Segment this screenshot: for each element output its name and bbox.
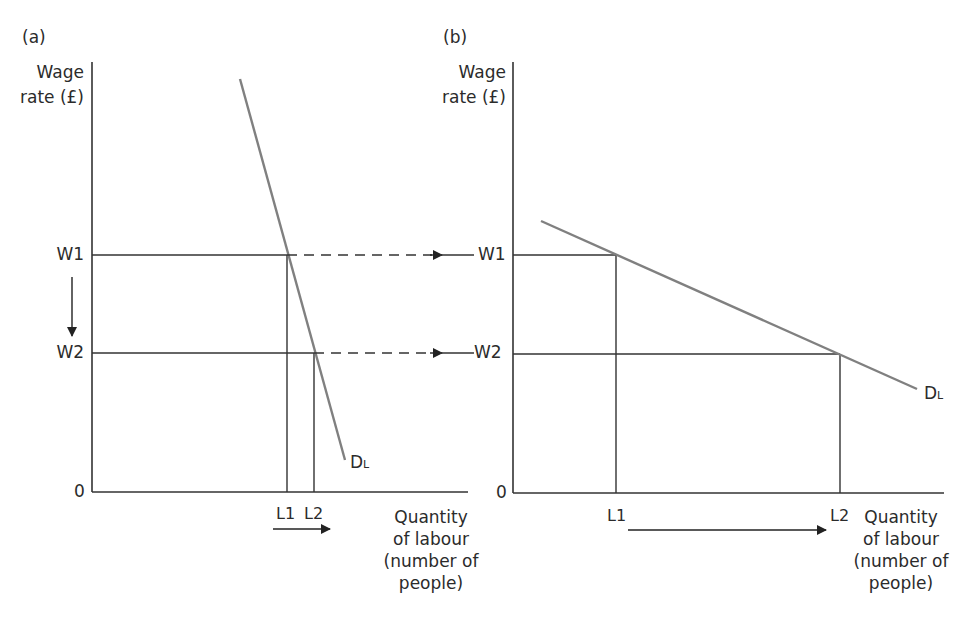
panel-a-l2-label: L2 bbox=[304, 503, 323, 524]
panel-a-w2-label: W2 bbox=[40, 342, 84, 363]
panel-a bbox=[72, 62, 468, 529]
panel-a-demand-curve bbox=[240, 79, 345, 460]
panel-b bbox=[513, 62, 944, 530]
panel-b-label: (b) bbox=[443, 27, 467, 48]
connectors bbox=[287, 255, 474, 353]
y-axis-label-line: rate (£) bbox=[14, 87, 84, 108]
panel-a-x-axis-label: Quantity of labour (number of people) bbox=[378, 506, 484, 594]
panel-a-w1-label: W1 bbox=[40, 244, 84, 265]
panel-a-demand-label: DL bbox=[350, 452, 369, 475]
y-axis-label-line: Wage bbox=[14, 62, 84, 83]
panel-a-y-axis-label: Wage rate (£) bbox=[14, 62, 84, 108]
x-axis-label-line: people) bbox=[378, 572, 484, 594]
y-axis-label-line: rate (£) bbox=[434, 87, 506, 108]
demand-label-main: D bbox=[924, 383, 937, 403]
y-axis-label-line: Wage bbox=[434, 62, 506, 83]
x-axis-label-line: of labour bbox=[378, 528, 484, 550]
x-axis-label-line: (number of bbox=[378, 550, 484, 572]
x-axis-label-line: Quantity bbox=[846, 506, 956, 528]
panel-a-origin-label: 0 bbox=[74, 481, 85, 502]
panel-b-demand-label: DL bbox=[924, 383, 943, 406]
demand-label-main: D bbox=[350, 452, 363, 472]
panel-b-w1-label: W1 bbox=[478, 244, 506, 265]
panel-b-y-axis-label: Wage rate (£) bbox=[434, 62, 506, 108]
x-axis-label-line: people) bbox=[846, 572, 956, 594]
panel-a-l1-label: L1 bbox=[276, 503, 295, 524]
panel-b-x-axis-label: Quantity of labour (number of people) bbox=[846, 506, 956, 594]
panel-b-w2-label: W2 bbox=[474, 342, 502, 363]
panel-b-origin-label: 0 bbox=[496, 482, 507, 503]
x-axis-label-line: (number of bbox=[846, 550, 956, 572]
x-axis-label-line: Quantity bbox=[378, 506, 484, 528]
panel-b-demand-curve bbox=[541, 221, 917, 389]
panel-a-label: (a) bbox=[22, 27, 46, 48]
demand-label-sub: L bbox=[363, 458, 369, 471]
demand-label-sub: L bbox=[937, 389, 943, 402]
x-axis-label-line: of labour bbox=[846, 528, 956, 550]
panel-b-l1-label: L1 bbox=[607, 505, 626, 526]
